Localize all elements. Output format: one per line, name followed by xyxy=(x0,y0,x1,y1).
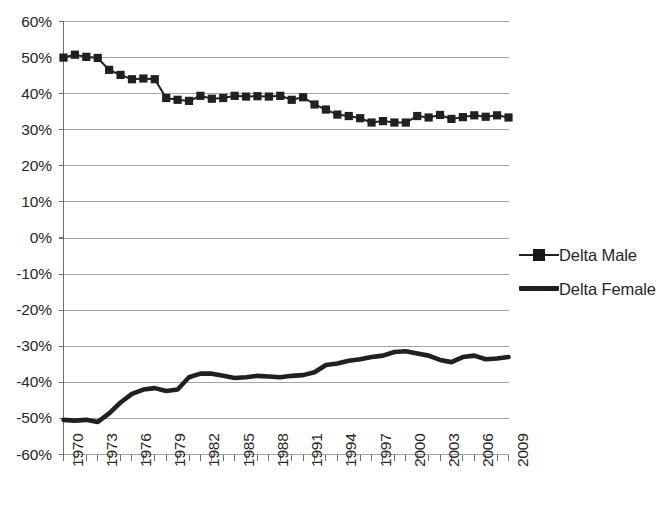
x-axis-tick-label: 1976 xyxy=(138,433,154,467)
x-axis-tick-label: 2006 xyxy=(480,433,496,467)
x-axis-tick-label: 2003 xyxy=(446,433,462,467)
x-axis-tick-label: 2000 xyxy=(412,433,428,467)
x-axis-tick-label: 1979 xyxy=(172,433,188,467)
x-axis-tick-label: 1982 xyxy=(206,433,222,467)
x-axis-tick-label: 1988 xyxy=(275,433,291,467)
legend-label-delta-female: Delta Female xyxy=(559,281,656,298)
x-axis-tick-label: 1997 xyxy=(378,433,394,467)
x-axis-tick-label: 1991 xyxy=(309,433,325,467)
x-axis-tick-label: 1985 xyxy=(241,433,257,467)
legend-item-delta-female: Delta Female xyxy=(519,272,664,306)
chart-container: 60%50%40%30%20%10%0%-10%-20%-30%-40%-50%… xyxy=(0,0,664,505)
legend-item-delta-male: Delta Male xyxy=(519,238,664,272)
legend-label-delta-male: Delta Male xyxy=(559,247,637,264)
legend-key-thick-line-icon xyxy=(519,279,559,299)
x-axis-tick-label: 1970 xyxy=(70,433,86,467)
x-axis-tick-label: 1994 xyxy=(343,433,359,467)
legend-key-square-marker-icon xyxy=(519,245,559,265)
x-axis-tick-label: 2009 xyxy=(515,433,531,467)
chart-legend: Delta Male Delta Female xyxy=(519,238,664,306)
x-axis-tick-label: 1973 xyxy=(104,433,120,467)
